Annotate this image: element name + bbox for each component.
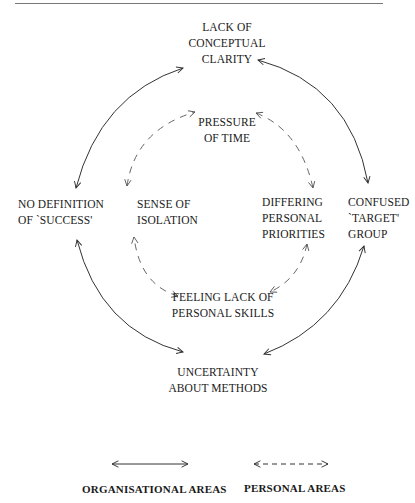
arrow-clarity-target — [258, 60, 368, 183]
arrow-priorities-skills — [270, 244, 307, 292]
node-line: ISOLATION — [137, 212, 198, 228]
node-line: LACK OF — [176, 19, 278, 35]
arrow-success-clarity — [76, 68, 183, 188]
node-confused-target-group: CONFUSED `TARGET' GROUP — [348, 194, 410, 242]
node-line: PRIORITIES — [262, 226, 325, 242]
node-line: `TARGET' — [348, 210, 410, 226]
node-line: UNCERTAINTY — [168, 364, 268, 380]
node-line: PRESSURE — [190, 114, 264, 130]
arrow-pressure-priorities — [256, 113, 313, 188]
arrow-isolation-pressure — [127, 112, 195, 186]
arrow-methods-success — [77, 240, 183, 352]
node-lack-of-conceptual-clarity: LACK OF CONCEPTUAL CLARITY — [176, 19, 278, 67]
node-uncertainty-about-methods: UNCERTAINTY ABOUT METHODS — [168, 364, 268, 396]
node-line: CONCEPTUAL — [176, 35, 278, 51]
arrow-skills-isolation — [134, 237, 178, 296]
node-feeling-lack-of-personal-skills: FEELING LACK OF PERSONAL SKILLS — [170, 289, 276, 321]
node-line: OF TIME — [190, 130, 264, 146]
node-line: GROUP — [348, 226, 410, 242]
node-line: DIFFERING — [262, 194, 325, 210]
node-differing-personal-priorities: DIFFERING PERSONAL PRIORITIES — [262, 194, 325, 242]
legend-organisational-label: ORGANISATIONAL AREAS — [82, 483, 227, 495]
node-sense-of-isolation: SENSE OF ISOLATION — [137, 196, 198, 228]
node-line: ABOUT METHODS — [168, 380, 268, 396]
diagram-arrows — [0, 0, 415, 503]
node-line: PERSONAL — [262, 210, 325, 226]
legend-personal-label: PERSONAL AREAS — [244, 482, 346, 494]
node-line: PERSONAL SKILLS — [170, 305, 276, 321]
node-line: CLARITY — [176, 51, 278, 67]
node-pressure-of-time: PRESSURE OF TIME — [190, 114, 264, 146]
node-line: CONFUSED — [348, 194, 410, 210]
arrow-target-methods — [264, 246, 364, 354]
node-line: OF `SUCCESS' — [18, 212, 104, 228]
node-line: FEELING LACK OF — [170, 289, 276, 305]
node-line: NO DEFINITION — [18, 196, 104, 212]
node-no-definition-of-success: NO DEFINITION OF `SUCCESS' — [18, 196, 104, 228]
node-line: SENSE OF — [137, 196, 198, 212]
